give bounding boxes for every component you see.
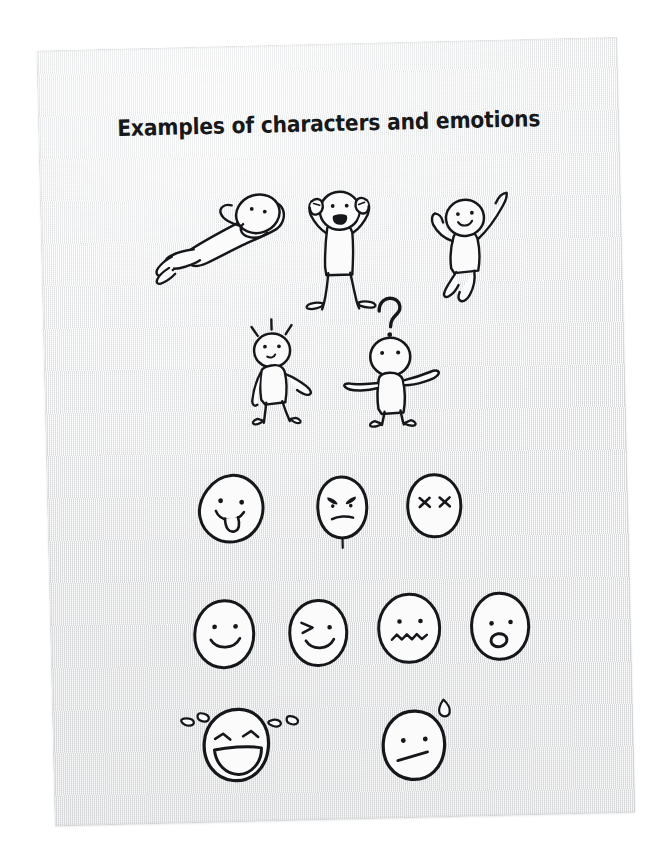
face-awkward	[357, 681, 489, 789]
figure-jumping	[414, 188, 521, 306]
face-laughing	[167, 690, 319, 794]
face-shocked	[462, 587, 540, 669]
sketch-page-scene: Examples of characters and emotions	[0, 0, 668, 853]
face-angry	[306, 471, 380, 563]
face-smiling	[185, 595, 265, 677]
face-tongue-out	[190, 470, 274, 554]
page-title: Examples of characters and emotions	[67, 104, 589, 142]
figure-surprised	[233, 312, 332, 426]
face-dizzy	[397, 469, 473, 549]
figure-reclining	[148, 190, 298, 288]
face-winking	[280, 595, 358, 675]
figure-confused	[331, 289, 460, 428]
drawing-content: Examples of characters and emotions	[37, 37, 635, 825]
face-nervous	[369, 588, 451, 672]
